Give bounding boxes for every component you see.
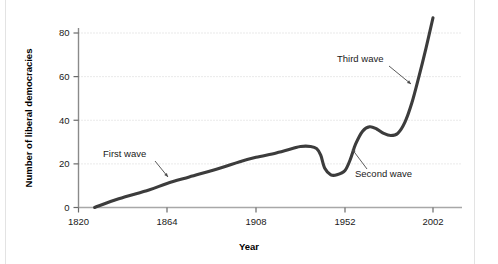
x-axis-tick-label: 2002 <box>422 216 443 227</box>
y-axis-tick-label: 40 <box>59 115 70 126</box>
x-axis-tick-label: 1952 <box>334 216 355 227</box>
annotation-label: First wave <box>103 148 146 159</box>
y-axis-tick-label: 80 <box>59 27 70 38</box>
annotation-leader-line <box>389 66 411 84</box>
chart-figure: 020406080 18201864190819522002 First wav… <box>0 0 498 264</box>
page-frame-right-rule <box>474 0 475 264</box>
page-frame-left-rule <box>5 0 6 264</box>
line-chart: 020406080 18201864190819522002 First wav… <box>0 0 498 264</box>
annotation-label: Second wave <box>355 168 412 179</box>
x-axis-tick-label: 1864 <box>156 216 177 227</box>
y-axis-tick-label: 0 <box>64 202 69 213</box>
y-axis-tick-label: 60 <box>59 71 70 82</box>
x-axis-ticks-group: 18201864190819522002 <box>68 208 444 227</box>
x-axis-title: Year <box>239 241 259 252</box>
annotation-label: Third wave <box>337 53 383 64</box>
y-axis-title: Number of liberal democracies <box>23 49 34 188</box>
gridlines-group <box>79 33 463 164</box>
y-axis-tick-label: 20 <box>59 158 70 169</box>
x-axis-tick-label: 1820 <box>68 216 89 227</box>
annotations-group: First waveSecond waveThird wave <box>103 53 412 179</box>
data-series-line <box>95 18 433 208</box>
y-axis-ticks-group: 020406080 <box>59 27 79 213</box>
x-axis-tick-label: 1908 <box>245 216 266 227</box>
